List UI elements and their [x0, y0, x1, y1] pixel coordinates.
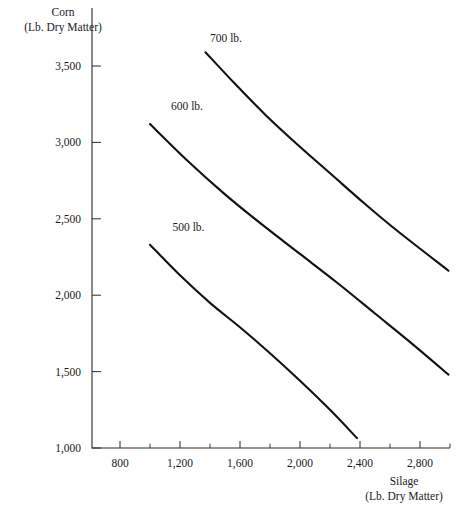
- y-axis-title-sub: (Lb. Dry Matter): [24, 21, 102, 34]
- series-curve-2: [206, 52, 449, 271]
- y-tick-label: 2,000: [55, 289, 81, 302]
- series-label-0: 500 lb.: [173, 221, 205, 233]
- x-tick-label: 1,600: [227, 457, 253, 470]
- series-label-1: 600 lb.: [171, 100, 203, 112]
- x-axis-title: Silage (Lb. Dry Matter): [365, 475, 443, 503]
- x-axis-title-main: Silage: [390, 475, 419, 488]
- x-tick-label: 1,200: [167, 457, 193, 470]
- series-label-2: 700 lb.: [210, 32, 242, 44]
- substitution-chart: 8001,2001,6002,0002,4002,800 1,0001,5002…: [0, 0, 458, 509]
- y-axis-title-main: Corn: [52, 6, 75, 18]
- x-axis-ticks: [120, 441, 450, 448]
- x-tick-label: 2,400: [347, 457, 373, 470]
- y-tick-label: 1,000: [55, 442, 81, 455]
- y-axis-ticks: [92, 66, 101, 448]
- axis-lines: [92, 8, 450, 448]
- x-axis-title-sub: (Lb. Dry Matter): [365, 490, 443, 503]
- series-labels: 500 lb.600 lb.700 lb.: [171, 32, 242, 233]
- y-axis-title: Corn (Lb. Dry Matter): [24, 6, 102, 34]
- chart-container: 8001,2001,6002,0002,4002,800 1,0001,5002…: [0, 0, 458, 509]
- x-tick-label: 800: [111, 457, 129, 469]
- y-tick-label: 1,500: [55, 366, 81, 379]
- x-tick-label: 2,800: [407, 457, 433, 470]
- y-axis-tick-labels: 1,0001,5002,0002,5003,0003,500: [55, 60, 81, 455]
- axes-group: [92, 8, 450, 448]
- series-curve-1: [150, 124, 449, 375]
- y-tick-label: 2,500: [55, 213, 81, 226]
- y-tick-label: 3,000: [55, 136, 81, 149]
- x-tick-label: 2,000: [287, 457, 313, 470]
- x-axis-tick-labels: 8001,2001,6002,0002,4002,800: [111, 457, 433, 470]
- y-tick-label: 3,500: [55, 60, 81, 73]
